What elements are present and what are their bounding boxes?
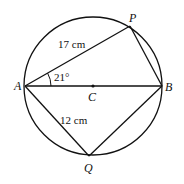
point-label-A: A bbox=[13, 79, 22, 93]
point-label-B: B bbox=[165, 80, 173, 94]
length-label-AQ: 12 cm bbox=[60, 114, 88, 126]
diagram-canvas: A B C P Q 17 cm 12 cm 21° bbox=[0, 0, 184, 184]
center-point bbox=[91, 84, 94, 87]
angle-label-PAB: 21° bbox=[54, 71, 69, 83]
point-label-Q: Q bbox=[84, 161, 93, 175]
chord-AP bbox=[25, 26, 130, 86]
angle-arc bbox=[48, 73, 51, 86]
chord-QB bbox=[89, 86, 162, 156]
chord-PB bbox=[130, 26, 162, 86]
circle-geometry-diagram: A B C P Q 17 cm 12 cm 21° bbox=[0, 0, 184, 184]
point-label-P: P bbox=[128, 11, 137, 25]
point-label-C: C bbox=[88, 90, 97, 104]
length-label-AP: 17 cm bbox=[58, 38, 86, 50]
